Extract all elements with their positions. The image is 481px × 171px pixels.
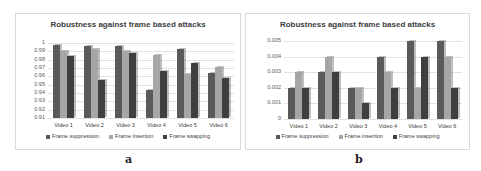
legend-item: Frame insertion	[339, 133, 383, 139]
bar-frame-suppression	[208, 73, 215, 118]
x-tick-label: Video 3	[343, 123, 373, 129]
chart-a-panel: Robustness against frame based attacks 1…	[15, 13, 241, 150]
legend-label: Frame suppression	[282, 133, 329, 139]
bar-frame-insertion	[325, 57, 332, 119]
legend-label: Frame swapping	[399, 133, 440, 139]
bar-frame-suppression	[53, 45, 60, 118]
chart-b-panel: Robustness against frame based attacks 0…	[245, 13, 470, 150]
bar-frame-suppression	[437, 41, 444, 119]
bar-frame-swapping	[421, 57, 428, 119]
bar-frame-swapping	[129, 53, 136, 118]
bar-frame-suppression	[348, 88, 355, 119]
y-tick-label: 0.005	[253, 37, 281, 43]
gridline	[284, 57, 462, 58]
y-tick-label: 0.003	[253, 68, 281, 74]
chart-b-legend: Frame suppressionFrame insertionFrame sw…	[246, 133, 469, 139]
x-tick-label: Video 6	[432, 123, 462, 129]
chart-b-title: Robustness against frame based attacks	[246, 20, 469, 29]
y-tick-label: 0.97	[17, 64, 45, 70]
legend-label: Frame swapping	[169, 133, 210, 139]
chart-b-plot-area: 0.0050.0040.0030.0020.0010Video 1Video 2…	[284, 41, 462, 119]
bar-frame-insertion	[444, 57, 451, 119]
bar-frame-suppression	[407, 41, 414, 119]
gridline	[48, 76, 234, 77]
gridline	[48, 101, 234, 102]
bar-frame-swapping	[160, 71, 167, 118]
y-tick-label: 0	[253, 115, 281, 121]
legend-item: Frame insertion	[109, 133, 153, 139]
y-tick-label: 0.004	[253, 53, 281, 59]
gridline	[284, 119, 462, 120]
y-tick-label: 0.99	[17, 47, 45, 53]
bar-frame-swapping	[67, 56, 74, 119]
gridline	[48, 68, 234, 69]
gridline	[284, 72, 462, 73]
bar-frame-insertion	[215, 67, 222, 118]
bar-frame-swapping	[362, 103, 369, 119]
x-tick-label: Video 3	[111, 122, 141, 128]
bar-frame-suppression	[288, 88, 295, 119]
y-tick-label: 1	[17, 39, 45, 45]
legend-swatch-icon	[163, 135, 167, 139]
y-tick-label: 0.91	[17, 114, 45, 120]
bar-frame-swapping	[222, 78, 229, 118]
legend-item: Frame suppression	[46, 133, 99, 139]
gridline	[284, 41, 462, 42]
gridline	[48, 85, 234, 86]
y-tick-label: 0.98	[17, 56, 45, 62]
legend-item: Frame swapping	[163, 133, 210, 139]
x-tick-label: Video 2	[80, 122, 110, 128]
bar-frame-insertion	[295, 72, 302, 119]
y-tick-label: 0.92	[17, 106, 45, 112]
gridline	[48, 110, 234, 111]
legend-swatch-icon	[276, 135, 280, 139]
gridline	[284, 88, 462, 89]
y-tick-label: 0.93	[17, 97, 45, 103]
bar-frame-insertion	[384, 72, 391, 119]
bar-frame-insertion	[184, 74, 191, 118]
bar-frame-insertion	[414, 88, 421, 119]
bar-frame-insertion	[153, 55, 160, 118]
bar-frame-insertion	[122, 51, 129, 119]
bar-frame-swapping	[332, 72, 339, 119]
legend-item: Frame suppression	[276, 133, 329, 139]
bar-frame-suppression	[146, 90, 153, 118]
legend-item: Frame swapping	[393, 133, 440, 139]
figure-label-b: b	[355, 153, 363, 166]
bar-frame-swapping	[391, 88, 398, 119]
bar-frame-swapping	[451, 88, 458, 119]
legend-swatch-icon	[339, 135, 343, 139]
x-tick-label: Video 6	[204, 122, 234, 128]
y-tick-label: 0.94	[17, 89, 45, 95]
legend-label: Frame insertion	[115, 133, 153, 139]
gridline	[48, 118, 234, 119]
x-tick-label: Video 5	[173, 122, 203, 128]
bar-frame-suppression	[84, 46, 91, 118]
bar-frame-insertion	[355, 88, 362, 119]
gridline	[48, 93, 234, 94]
x-tick-label: Video 4	[142, 122, 172, 128]
figure-label-a: a	[125, 153, 132, 166]
bar-frame-swapping	[302, 88, 309, 119]
y-tick-label: 0.002	[253, 84, 281, 90]
gridline	[48, 51, 234, 52]
chart-a-legend: Frame suppressionFrame insertionFrame sw…	[16, 133, 240, 139]
bar-frame-insertion	[91, 49, 98, 118]
chart-a-plot-area: 10.990.980.970.960.950.940.930.920.91Vid…	[48, 43, 234, 118]
y-tick-label: 0.95	[17, 81, 45, 87]
bar-frame-swapping	[191, 63, 198, 118]
bar-frame-swapping	[98, 80, 105, 118]
bar-frame-suppression	[377, 57, 384, 119]
legend-swatch-icon	[109, 135, 113, 139]
legend-swatch-icon	[46, 135, 50, 139]
bar-frame-suppression	[115, 46, 122, 118]
x-tick-label: Video 4	[373, 123, 403, 129]
bar-frame-suppression	[318, 72, 325, 119]
x-tick-label: Video 5	[403, 123, 433, 129]
legend-swatch-icon	[393, 135, 397, 139]
gridline	[48, 43, 234, 44]
x-tick-label: Video 1	[284, 123, 314, 129]
x-tick-label: Video 1	[49, 122, 79, 128]
gridline	[284, 103, 462, 104]
y-tick-label: 0.96	[17, 72, 45, 78]
